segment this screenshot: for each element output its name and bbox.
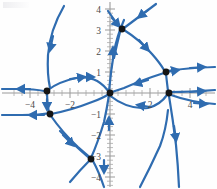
equilibrium-upper-saddle [119,26,126,33]
equilibrium-left-axis-saddle [44,88,51,95]
arrow-upper-right-in [139,10,148,17]
arrow-into-upper-saddle [112,18,119,26]
equilibrium-right-upper-saddle [163,69,170,76]
curve-lower-left-to-lower-saddle [51,116,92,159]
x-tick-label: 4 [188,100,193,110]
x-tick-label: −2 [65,100,75,110]
y-tick-label: −1 [91,110,101,120]
phase-portrait-figure: −4 −2 2 4 4 3 2 1 −1 −2 −3 −4 [0,0,217,189]
curve-lower-saddle-to-origin [91,95,109,158]
curve-right-descend [169,96,179,187]
y-tick-label: −4 [91,173,101,183]
curve-lower-saddle-sw [70,160,90,182]
y-tick-label: −2 [91,131,101,141]
y-tick-label: 1 [96,68,101,78]
arrow-upper-to-right [139,40,148,50]
equilibrium-origin-node [107,90,114,97]
curve-bottom-right-branch [140,110,168,187]
equilibrium-points-group [44,26,173,163]
arrow-right-axis-out [190,91,204,92]
y-tick-label: 3 [96,26,101,36]
phase-portrait-canvas: −4 −2 2 4 4 3 2 1 −1 −2 −3 −4 [0,0,217,189]
arrow-right-upper-out [190,67,204,68]
y-tick-label: 4 [96,5,101,15]
curve-right-upper-to-axis-saddle [166,74,168,91]
y-tick-label: 2 [96,47,101,57]
arrow-right-axis-lower-out [194,103,206,104]
curve-upper-to-right-saddle [124,30,164,70]
equilibrium-lower-left-saddle [47,111,54,118]
y-tick-label: −3 [91,152,101,162]
curve-right-axis-to-origin [109,95,167,108]
scan-artifact [3,2,29,8]
x-tick-label: −4 [25,100,35,110]
curve-left-to-origin-upper [48,77,109,92]
equilibrium-right-axis-saddle [166,90,173,97]
x-tick-label: 2 [148,100,153,110]
y-tick-labels-group: 4 3 2 1 −1 −2 −3 −4 [91,5,101,183]
